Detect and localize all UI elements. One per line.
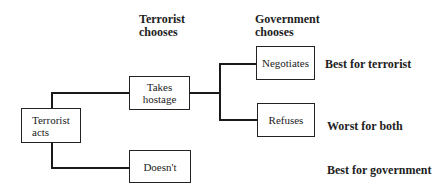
node-refuses-label: Refuses: [269, 114, 304, 126]
outcome-doesnt: Best for government: [327, 163, 431, 178]
node-doesnt: Doesn't: [129, 150, 191, 183]
node-negotiates-label: Negotiates: [262, 57, 309, 69]
connector-hostage-out: [188, 92, 221, 94]
node-terrorist-acts-label: Terrorist acts: [32, 114, 70, 138]
node-refuses: Refuses: [257, 103, 315, 137]
node-takes-hostage: Takes hostage: [129, 76, 190, 110]
connector-to-refuses: [219, 119, 257, 121]
connector-gov-vertical: [219, 63, 221, 121]
connector-root-to-doesnt: [51, 167, 130, 169]
node-takes-hostage-label: Takes hostage: [142, 81, 177, 105]
node-terrorist-acts: Terrorist acts: [21, 108, 81, 143]
outcome-negotiates: Best for terrorist: [325, 57, 411, 72]
connector-to-negotiates: [219, 63, 257, 65]
outcome-refuses: Worst for both: [327, 119, 403, 134]
header-terrorist-chooses: Terrorist chooses: [139, 13, 185, 39]
header-government-chooses: Government chooses: [255, 13, 320, 39]
node-negotiates: Negotiates: [256, 46, 315, 80]
connector-root-to-hostage: [51, 92, 130, 94]
node-doesnt-label: Doesn't: [143, 161, 176, 173]
